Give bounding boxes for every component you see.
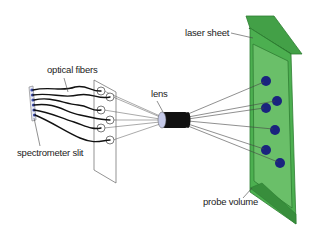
probe-point — [275, 158, 285, 168]
optical-fibers — [33, 86, 110, 141]
label-laser-sheet: laser sheet — [185, 27, 229, 38]
label-lens: lens — [151, 88, 168, 99]
probe-point — [261, 76, 271, 86]
lens-leader — [157, 101, 163, 112]
lens — [158, 112, 191, 128]
spectrometer-slit-leader — [34, 118, 40, 146]
label-optical-fibers: optical fibers — [47, 64, 98, 75]
fiber-panel — [94, 80, 116, 183]
label-spectrometer-slit: spectrometer slit — [17, 147, 83, 158]
laser-sheet — [246, 16, 302, 224]
label-probe-volume: probe volume — [203, 196, 258, 207]
probe-point — [270, 125, 280, 135]
optical-diagram — [0, 0, 312, 230]
optical-fibers-leader — [64, 78, 68, 92]
probe-point — [261, 145, 271, 155]
